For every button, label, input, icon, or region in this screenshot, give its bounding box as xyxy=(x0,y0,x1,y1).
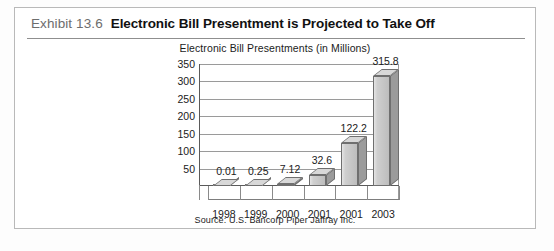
gridline xyxy=(199,81,399,82)
plot-area: 0.010.257.1232.6122.2315.8 xyxy=(199,64,399,200)
gridline xyxy=(199,151,399,152)
x-axis-tick xyxy=(272,186,273,200)
exhibit-screenshot: Exhibit 13.6 Electronic Bill Presentment… xyxy=(0,0,554,251)
bar-front-face xyxy=(341,143,358,186)
exhibit-frame: Exhibit 13.6 Electronic Bill Presentment… xyxy=(14,7,536,229)
y-axis-tick-label: 100 xyxy=(159,145,195,157)
chart-area: 50100150200250300350 0.010.257.1232.6122… xyxy=(123,60,409,210)
x-axis-tick xyxy=(367,186,368,200)
x-axis-tick xyxy=(240,186,241,200)
source-note: Source: U.S. Bancorp Piper Jaffray Inc. xyxy=(15,215,535,225)
bar xyxy=(213,179,230,187)
bar-front-face xyxy=(309,175,326,186)
bar-value-label: 7.12 xyxy=(280,163,300,175)
y-axis-tick-label: 150 xyxy=(159,128,195,140)
bar-value-label: 0.01 xyxy=(216,165,236,177)
x-axis-tick xyxy=(208,186,209,200)
bar xyxy=(373,69,390,186)
bar-side-face xyxy=(390,69,399,186)
x-axis-tick xyxy=(399,186,400,200)
exhibit-number: Exhibit 13.6 xyxy=(31,16,103,31)
gridline xyxy=(199,99,399,100)
header-divider xyxy=(27,38,525,39)
y-axis-tick-label: 250 xyxy=(159,93,195,105)
y-axis-tick-label: 200 xyxy=(159,110,195,122)
bar-value-label: 315.8 xyxy=(372,55,398,67)
bar xyxy=(245,179,262,187)
bar xyxy=(309,168,326,186)
gridline xyxy=(199,134,399,135)
y-axis-tick-label: 300 xyxy=(159,75,195,87)
bar-side-face xyxy=(358,136,367,186)
gridline xyxy=(199,116,399,117)
exhibit-header: Exhibit 13.6 Electronic Bill Presentment… xyxy=(15,8,535,38)
bar xyxy=(341,136,358,186)
bar-front-face xyxy=(373,76,390,186)
bar-value-label: 32.6 xyxy=(312,154,332,166)
chart-title: Electronic Bill Presentments (in Million… xyxy=(15,42,535,54)
gridline xyxy=(199,64,399,65)
x-axis-tick xyxy=(304,186,305,200)
y-axis-line xyxy=(199,64,200,200)
bar-value-label: 0.25 xyxy=(248,165,268,177)
bar-value-label: 122.2 xyxy=(341,122,367,134)
exhibit-title: Electronic Bill Presentment is Projected… xyxy=(111,16,435,31)
y-axis-tick-label: 350 xyxy=(159,58,195,70)
x-axis-tick xyxy=(335,186,336,200)
y-axis-tick-label: 50 xyxy=(159,163,195,175)
bar xyxy=(277,177,294,186)
